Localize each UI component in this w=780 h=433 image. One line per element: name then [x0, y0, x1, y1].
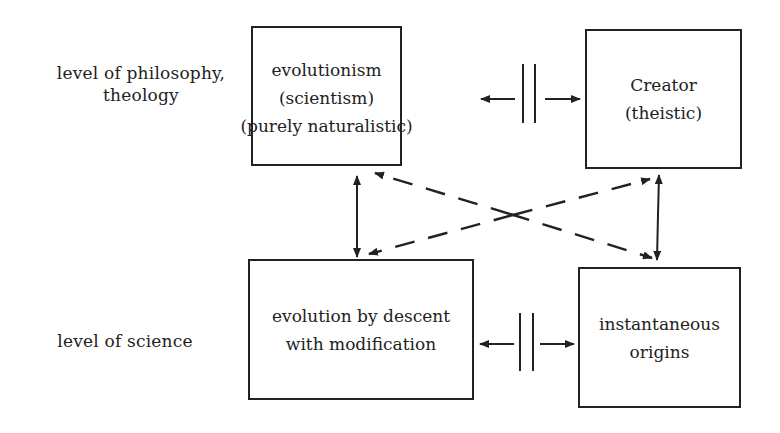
bottom-incompatible-connector [480, 313, 574, 371]
arrow-up-icon [658, 175, 659, 215]
arrow-down-icon [657, 215, 658, 260]
right-vertical-connector [657, 175, 659, 260]
arrow-down-right-icon [510, 214, 652, 258]
connector-layer [0, 0, 780, 433]
dashed-connector-creator-descent [369, 179, 650, 254]
arrow-up-right-icon [513, 179, 650, 215]
top-incompatible-connector [481, 64, 580, 123]
arrow-down-left-icon [369, 215, 513, 254]
arrow-up-left-icon [375, 173, 510, 214]
